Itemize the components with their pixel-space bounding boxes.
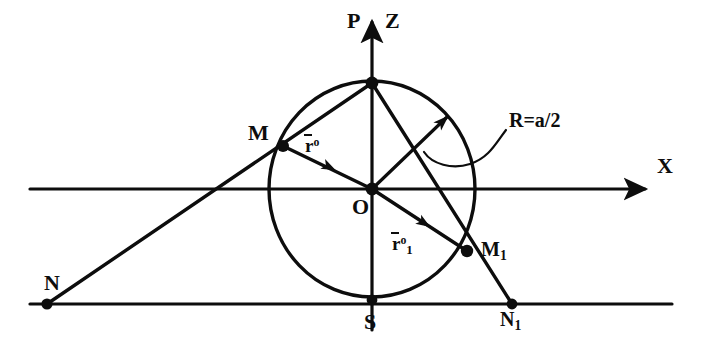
- point-label-m1: M1: [481, 239, 507, 262]
- point-label-m1-base: M: [481, 238, 500, 260]
- vector-label-r-zero: ro: [305, 135, 319, 155]
- vector-r-one-zero: [372, 189, 467, 251]
- radius-vector: [372, 117, 447, 189]
- point-dot-n: [41, 298, 52, 309]
- radius-leader-curve: [424, 130, 506, 166]
- vector-label-r-one-zero-base: r: [392, 233, 400, 253]
- point-label-s: S: [364, 311, 376, 333]
- point-label-n: N: [44, 272, 60, 294]
- geometric-diagram: P Z X O M M1 N N1 S R=a/2 ro ro1: [0, 0, 709, 342]
- point-label-n1: N1: [500, 309, 521, 332]
- vector-label-r-one-zero: ro1: [392, 233, 413, 257]
- point-label-m1-subscript: 1: [500, 248, 507, 263]
- vector-label-r-one-zero-subscript: 1: [406, 242, 412, 257]
- point-label-n1-subscript: 1: [514, 318, 521, 333]
- vector-label-r-zero-superscript: o: [313, 136, 319, 149]
- radius-label: R=a/2: [509, 110, 560, 130]
- apex-label-p: P: [347, 10, 360, 32]
- point-dot-m1: [461, 245, 473, 257]
- line-p-m1-n1: [372, 83, 512, 304]
- axis-label-z: Z: [385, 10, 400, 32]
- axis-label-x: X: [657, 155, 673, 177]
- vector-label-r-zero-base: r: [305, 135, 313, 155]
- point-dot-p: [366, 77, 379, 90]
- origin-label-o: O: [352, 196, 369, 218]
- point-label-m: M: [248, 122, 269, 144]
- point-dot-s: [367, 295, 378, 306]
- point-dot-m: [277, 140, 289, 152]
- line-p-m-n: [47, 83, 372, 304]
- diagram-canvas: [0, 0, 709, 342]
- point-label-n1-base: N: [500, 308, 514, 330]
